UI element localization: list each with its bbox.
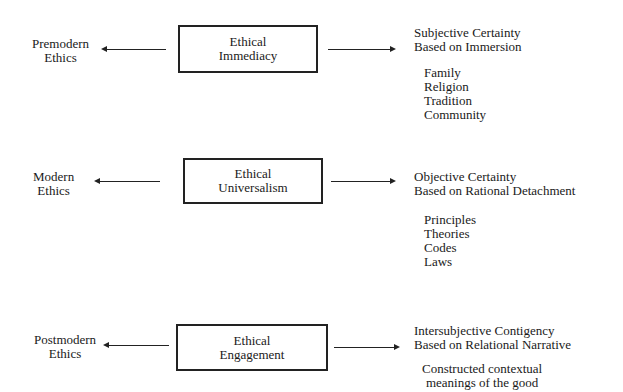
arrow-left-head-icon: [101, 46, 107, 52]
box-ethical-engagement: Ethical Engagement: [176, 324, 328, 371]
left-label-postmodern: Postmodern Ethics: [34, 333, 96, 361]
arrow-left-head-icon: [94, 178, 100, 184]
right-items-narrative: Constructed contextual meanings of the g…: [422, 362, 542, 390]
right-items-detachment: Principles Theories Codes Laws: [424, 213, 476, 269]
list-item: Community: [424, 108, 486, 122]
arrow-right-head-icon: [390, 178, 396, 184]
list-item: Theories: [424, 227, 476, 241]
list-item: Codes: [424, 241, 476, 255]
arrow-left-line: [107, 345, 169, 346]
list-item: meanings of the good: [422, 376, 542, 390]
arrow-left-line: [98, 181, 160, 182]
right-items-immersion: Family Religion Tradition Community: [424, 66, 486, 122]
box-ethical-immediacy: Ethical Immediacy: [178, 25, 318, 73]
right-heading-narrative: Intersubjective Contigency Based on Rela…: [414, 324, 571, 352]
right-heading-detachment: Objective Certainty Based on Rational De…: [414, 170, 575, 198]
arrow-left-line: [104, 49, 166, 50]
left-label-modern: Modern Ethics: [33, 170, 74, 198]
list-item: Laws: [424, 255, 476, 269]
box-ethical-universalism: Ethical Universalism: [183, 158, 323, 204]
list-item: Principles: [424, 213, 476, 227]
arrow-right-line: [334, 347, 395, 348]
arrow-left-head-icon: [103, 342, 109, 348]
list-item: Tradition: [424, 94, 486, 108]
arrow-right-line: [331, 181, 391, 182]
list-item: Family: [424, 66, 486, 80]
arrow-right-head-icon: [394, 344, 400, 350]
arrow-right-line: [328, 49, 391, 50]
arrow-right-head-icon: [390, 46, 396, 52]
left-label-premodern: Premodern Ethics: [32, 37, 89, 65]
right-heading-immersion: Subjective Certainty Based on Immersion: [414, 26, 522, 54]
list-item: Religion: [424, 80, 486, 94]
list-item: Constructed contextual: [422, 362, 542, 376]
